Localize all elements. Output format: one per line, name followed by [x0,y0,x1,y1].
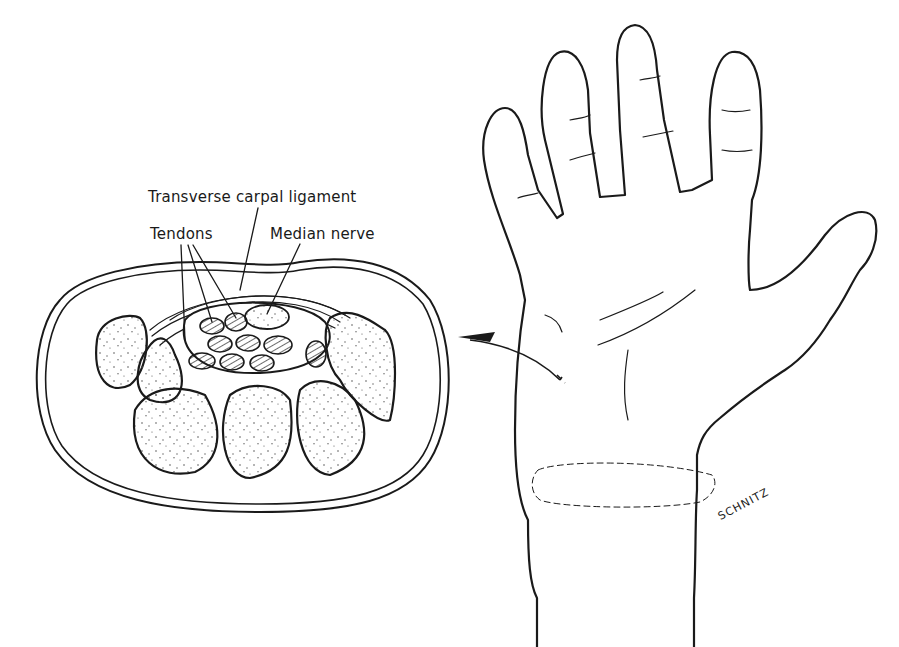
hand [483,25,876,647]
median-nerve [245,305,289,329]
ulnar-structure [306,341,326,367]
label-transverse-carpal-ligament: Transverse carpal ligament [148,188,356,206]
illustration [0,0,899,647]
label-median-nerve: Median nerve [270,225,375,243]
label-tendons: Tendons [150,225,213,243]
arrow [458,332,565,383]
wrist-cross-section [37,208,449,512]
